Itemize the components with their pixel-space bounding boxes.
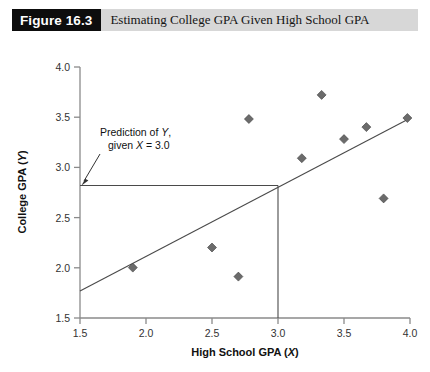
y-axis-title-tail: ) (16, 150, 28, 154)
y-tick-label: 4.0 (55, 61, 70, 73)
data-point-marker (244, 115, 253, 124)
x-tick-label: 1.5 (73, 327, 88, 339)
annotation-line1-text: Prediction of (100, 126, 161, 138)
annotation-line2-tail: = 3.0 (143, 139, 170, 151)
figure-caption: Estimating College GPA Given High School… (101, 9, 369, 31)
data-point-marker (340, 135, 349, 144)
data-point-marker (379, 194, 388, 203)
figure-number-label: Figure 16.3 (12, 9, 101, 31)
y-axis-tick-labels: 4.0 3.5 3.0 2.5 2.0 1.5 (55, 61, 70, 324)
x-tick-label: 2.5 (205, 327, 220, 339)
x-tick-label: 2.0 (139, 327, 154, 339)
scatter-plot: 4.0 3.5 3.0 2.5 2.0 1.5 1.5 2.0 2.5 3.0 … (0, 34, 430, 372)
x-axis-title-text: High School GPA ( (191, 346, 288, 358)
x-axis-tick-labels: 1.5 2.0 2.5 3.0 3.5 4.0 (73, 327, 418, 339)
y-axis-ticks (74, 67, 80, 318)
annotation-line2-text: given (108, 139, 136, 151)
x-axis-title: High School GPA (X) (191, 346, 299, 358)
data-point-marker (208, 243, 217, 252)
x-axis-ticks (80, 318, 410, 324)
data-point-marker (362, 123, 371, 132)
y-tick-label: 3.0 (55, 161, 70, 173)
x-tick-label: 4.0 (403, 327, 418, 339)
figure-banner: Figure 16.3 Estimating College GPA Given… (12, 9, 418, 31)
data-point-marker (317, 90, 326, 99)
annotation-arrow-icon (82, 154, 101, 186)
x-tick-label: 3.5 (337, 327, 352, 339)
y-axis-title: College GPA (Y) (16, 150, 28, 233)
y-tick-label: 2.5 (55, 212, 70, 224)
y-tick-label: 2.0 (55, 262, 70, 274)
y-tick-label: 3.5 (55, 111, 70, 123)
annotation-line-1: Prediction of Y, (100, 126, 171, 138)
y-tick-label: 1.5 (55, 312, 70, 324)
x-axis-title-tail: ) (295, 346, 299, 358)
annotation-line1-tail: , (168, 126, 171, 138)
data-point-marker (297, 154, 306, 163)
annotation-line-2: given X = 3.0 (108, 139, 170, 151)
y-axis-title-text: College GPA ( (16, 161, 28, 233)
data-point-marker (234, 272, 243, 281)
x-tick-label: 3.0 (271, 327, 286, 339)
chart-container: 4.0 3.5 3.0 2.5 2.0 1.5 1.5 2.0 2.5 3.0 … (0, 34, 430, 372)
